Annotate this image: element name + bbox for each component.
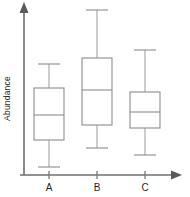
box-b: [82, 58, 112, 125]
x-axis-arrowhead: [171, 171, 182, 180]
x-tick-labels: A B C: [46, 182, 149, 193]
box-a: [34, 88, 64, 140]
boxplot-canvas: A B C: [0, 0, 190, 197]
box-group-a: [34, 64, 64, 167]
box-group-b: [82, 10, 112, 148]
x-tick-label-b: B: [94, 182, 101, 193]
x-tick-label-c: C: [141, 182, 148, 193]
y-axis-arrowhead: [20, 2, 29, 13]
box-group-c: [130, 50, 160, 155]
box-c: [130, 92, 160, 128]
x-tick-label-a: A: [46, 182, 53, 193]
boxplot-chart: A B C Abundance: [0, 0, 190, 197]
